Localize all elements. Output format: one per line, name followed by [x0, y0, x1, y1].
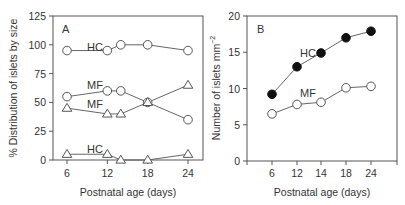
- data-point-open-circle: [342, 83, 351, 92]
- x-axis-ticks-a: 6121824: [64, 160, 194, 179]
- y-tick-label: 100: [28, 39, 46, 51]
- data-point-triangle: [116, 109, 126, 117]
- x-tick-label: 24: [182, 167, 194, 179]
- figure-canvas: 0255075100125 6121824 A HC MF MF HC Post…: [0, 0, 405, 205]
- series-line-hc: [272, 31, 371, 94]
- data-point-triangle: [103, 149, 113, 157]
- data-point-triangle: [183, 80, 193, 88]
- data-point-open-circle: [268, 110, 277, 119]
- panel-a: 0255075100125 6121824 A HC MF MF HC Post…: [7, 10, 203, 198]
- data-point-triangle: [116, 155, 126, 163]
- series-label-hc-triangle: HC: [87, 143, 103, 155]
- data-point-filled-circle: [367, 27, 376, 36]
- data-point-circle: [63, 46, 72, 55]
- data-point-circle: [103, 46, 112, 55]
- y-axis-label-a: % Distribution of islets by size: [7, 18, 19, 157]
- data-point-open-circle: [317, 98, 326, 107]
- data-point-filled-circle: [317, 49, 326, 58]
- y-tick-label: 5: [234, 119, 240, 131]
- series-line-mf-triangle: [67, 85, 188, 114]
- series-label-mf-circle: MF: [87, 79, 103, 91]
- series-markers-b: [268, 27, 376, 118]
- series-line-mf-circle: [67, 91, 188, 120]
- panel-label-b: B: [257, 23, 264, 35]
- x-tick-label: 24: [365, 167, 377, 179]
- series-lines-a: [67, 45, 188, 160]
- data-point-triangle: [183, 149, 193, 157]
- y-axis-ticks-b: 05101520: [228, 10, 247, 167]
- y-tick-label: 25: [34, 125, 46, 137]
- x-tick-label: 14: [315, 167, 327, 179]
- data-point-circle: [116, 87, 125, 96]
- data-point-circle: [116, 41, 125, 50]
- x-axis-label-a: Postnatal age (days): [80, 186, 176, 198]
- y-tick-label: 50: [34, 96, 46, 108]
- series-label-hc-circle: HC: [87, 41, 103, 53]
- y-tick-label: 0: [40, 154, 46, 166]
- data-point-filled-circle: [342, 33, 351, 42]
- series-line-hc-triangle: [67, 154, 188, 160]
- x-axis-ticks-b: 612141824: [247, 161, 397, 179]
- series-markers-a: [62, 41, 193, 164]
- data-point-triangle: [62, 103, 72, 111]
- x-tick-label: 18: [340, 167, 352, 179]
- panel-label-a: A: [62, 23, 70, 35]
- series-line-hc-circle: [67, 45, 188, 51]
- data-point-circle: [184, 115, 193, 124]
- series-label-mf-triangle: MF: [87, 98, 103, 110]
- y-axis-ticks-a: 0255075100125: [28, 10, 53, 166]
- data-point-circle: [63, 92, 72, 101]
- y-axis-label-b: Number of islets mm−2: [209, 36, 222, 140]
- figure: 0255075100125 6121824 A HC MF MF HC Post…: [0, 0, 405, 205]
- data-point-open-circle: [293, 100, 302, 109]
- panel-b: 05101520 612141824 B HC MF Postnatal age…: [209, 10, 397, 198]
- series-label-hc: HC: [300, 47, 316, 59]
- data-point-filled-circle: [293, 62, 302, 71]
- data-point-filled-circle: [268, 90, 277, 99]
- x-tick-label: 12: [291, 167, 303, 179]
- y-tick-label: 15: [228, 46, 240, 58]
- y-tick-label: 0: [234, 155, 240, 167]
- y-tick-label: 75: [34, 68, 46, 80]
- y-tick-label: 125: [28, 10, 46, 22]
- x-axis-label-b: Postnatal age (days): [274, 186, 370, 198]
- data-point-circle: [103, 87, 112, 96]
- x-tick-label: 18: [142, 167, 154, 179]
- data-point-open-circle: [367, 82, 376, 91]
- x-tick-label: 6: [269, 167, 275, 179]
- data-point-circle: [143, 41, 152, 50]
- series-label-mf: MF: [300, 87, 316, 99]
- x-tick-label: 6: [64, 167, 70, 179]
- y-tick-label: 10: [228, 83, 240, 95]
- data-point-triangle: [62, 149, 72, 157]
- data-point-circle: [184, 46, 193, 55]
- x-tick-label: 12: [101, 167, 113, 179]
- y-tick-label: 20: [228, 10, 240, 22]
